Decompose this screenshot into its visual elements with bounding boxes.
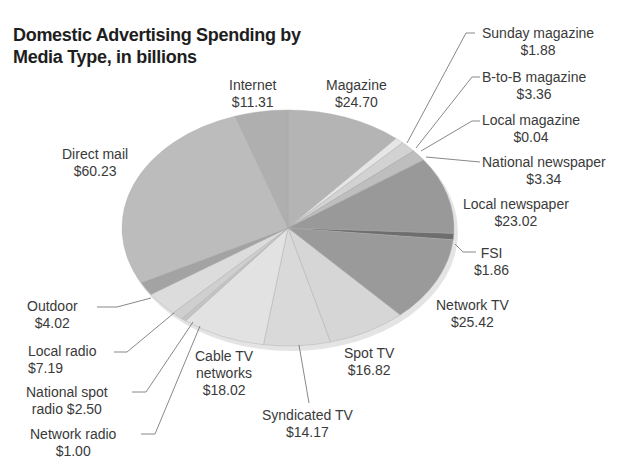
leader-line-sunday-magazine	[407, 33, 475, 143]
leader-line-btob-magazine	[416, 77, 480, 148]
label-national-newspaper: National newspaper $3.34	[482, 154, 606, 188]
leader-line-national-newspaper	[426, 157, 480, 162]
label-local-radio: Local radio $7.19	[28, 343, 97, 377]
leader-line-outdoor	[97, 298, 151, 307]
label-network-radio: Network radio $1.00	[30, 426, 116, 460]
label-direct-mail: Direct mail $60.23	[62, 146, 128, 180]
leader-line-syndicated-tv	[299, 345, 309, 403]
label-spot-tv: Spot TV $16.82	[344, 345, 394, 379]
label-fsi: FSI $1.86	[474, 245, 509, 279]
label-network-tv: Network TV $25.42	[436, 297, 509, 331]
label-internet: Internet $11.31	[229, 77, 276, 111]
leader-line-local-radio	[114, 313, 174, 352]
label-syndicated-tv: Syndicated TV $14.17	[262, 407, 353, 441]
label-outdoor: Outdoor $4.02	[27, 298, 78, 332]
label-national-spot-radio: National spot radio $2.50	[26, 384, 108, 418]
label-local-magazine: Local magazine $0.04	[482, 112, 580, 146]
label-local-newspaper: Local newspaper $23.02	[463, 196, 569, 230]
leader-line-network-radio	[141, 326, 200, 434]
leader-line-national-spot-radio	[132, 322, 193, 392]
label-magazine: Magazine $24.70	[326, 77, 387, 111]
label-sunday-magazine: Sunday magazine $1.88	[482, 25, 594, 59]
pie-slices	[122, 110, 454, 346]
leader-line-fsi	[455, 244, 476, 252]
leader-line-local-magazine	[421, 121, 480, 151]
label-cable-tv: Cable TV networks $18.02	[195, 348, 253, 399]
label-btob-magazine: B-to-B magazine $3.36	[482, 69, 586, 103]
